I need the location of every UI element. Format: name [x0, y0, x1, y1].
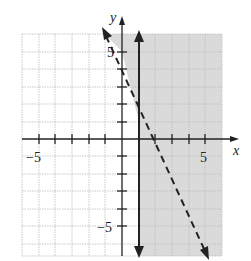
x-tick-label-neg5: −5 — [26, 150, 41, 165]
y-axis-label: y — [108, 10, 117, 25]
x-axis-arrow-icon — [230, 136, 239, 142]
y-axis — [117, 16, 127, 256]
y-tick-label-5: 5 — [107, 45, 114, 60]
y-tick-label-neg5: −5 — [97, 220, 112, 235]
x-axis-label: x — [232, 143, 240, 158]
inequality-graph: y x −5 5 5 −5 — [0, 0, 251, 261]
x-tick-label-5: 5 — [200, 150, 207, 165]
y-axis-arrow-icon — [119, 16, 125, 25]
